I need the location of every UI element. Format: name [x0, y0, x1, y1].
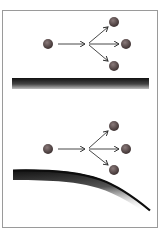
scattered-ball-up [109, 121, 119, 131]
scatter-arrow-up [89, 27, 108, 43]
incident-ball [43, 144, 53, 154]
scattered-ball-straight [121, 144, 131, 154]
panel-curved-surface [13, 121, 150, 217]
panel-flat-surface [12, 17, 149, 89]
scattered-ball-down [109, 165, 119, 175]
flat-surface [12, 78, 149, 89]
scatter-arrow-down [89, 45, 108, 61]
curved-surface [13, 170, 150, 217]
scattering-diagram [0, 0, 163, 238]
scattered-ball-up [109, 17, 119, 27]
incident-ball [43, 39, 53, 49]
scatter-arrow-down [89, 150, 108, 165]
scattered-ball-straight [121, 39, 131, 49]
scatter-arrow-up [89, 131, 108, 148]
scattered-ball-down [109, 61, 119, 71]
